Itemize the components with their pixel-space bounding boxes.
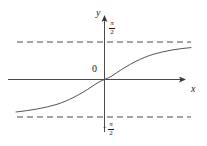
fraction-numerator: π [109,20,115,27]
upper-asymptote-label: π 2 [109,20,115,37]
y-axis-label: y [96,8,100,18]
fraction-stack: π 2 [109,20,115,37]
fraction-denominator: 2 [109,29,115,36]
lower-asymptote-label: − π 2 [103,121,114,138]
origin-label: 0 [92,64,97,74]
arctan-graph-figure: y x 0 π 2 − π 2 [0,0,207,146]
fraction-numerator: π [108,121,114,128]
fraction-minus-sign: − [103,125,107,133]
fraction-stack: π 2 [108,121,114,138]
fraction-denominator: 2 [108,130,114,137]
x-axis-label: x [191,84,195,94]
